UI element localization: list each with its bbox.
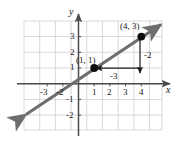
run-label: -3 (110, 71, 118, 81)
y-tick--2: -2 (66, 110, 74, 120)
x-tick--2: -2 (56, 87, 64, 97)
point-1-1 (90, 64, 98, 72)
x-tick-1: 1 (92, 87, 97, 97)
y-axis-label: y (69, 6, 73, 17)
y-tick-3: 3 (70, 31, 75, 41)
x-tick-4: 4 (139, 87, 144, 97)
graph-figure: y x -3 -2 1 2 3 4 3 2 1 -1 -2 (1, 1) (4,… (0, 0, 182, 142)
x-tick-2: 2 (107, 87, 112, 97)
y-tick-2: 2 (70, 47, 75, 57)
x-tick--3: -3 (40, 87, 48, 97)
rise-label: -2 (144, 50, 152, 60)
y-tick--1: -1 (66, 94, 74, 104)
x-axis-label: x (166, 84, 170, 95)
coordinate-plane-svg (0, 0, 182, 142)
point-4-3 (137, 33, 145, 41)
point-label-1-1: (1, 1) (76, 55, 96, 65)
y-tick-1: 1 (70, 62, 75, 72)
x-tick-3: 3 (123, 87, 128, 97)
point-label-4-3: (4, 3) (120, 21, 140, 31)
